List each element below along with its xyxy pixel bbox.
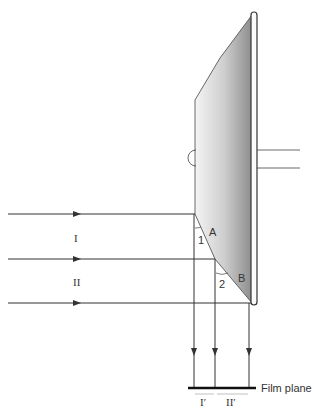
region-ii-prime-label: II′ (226, 396, 236, 408)
beam-label-i: I (74, 232, 78, 244)
angle-2-label: 2 (219, 278, 225, 290)
mirror-backplate (251, 12, 257, 305)
beam-label-ii: II (73, 276, 81, 288)
point-a-label: A (209, 226, 217, 238)
diagram: I II A B 1 2 Film plane I′ II′ (0, 0, 315, 410)
point-b-label: B (238, 272, 245, 284)
optics-diagram: I II A B 1 2 Film plane I′ II′ (0, 0, 315, 410)
region-i-prime-label: I′ (200, 396, 206, 408)
angle-1-label: 1 (198, 234, 204, 246)
film-plane-label: Film plane (261, 382, 312, 394)
mirror-body (195, 15, 252, 303)
